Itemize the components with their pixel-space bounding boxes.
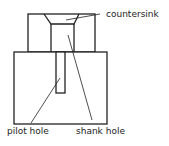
shank-hole-label: shank hole <box>76 127 125 136</box>
pilot-hole-label: pilot hole <box>7 127 49 136</box>
countersink-label: countersink <box>106 10 159 19</box>
pilot-hole <box>56 52 65 93</box>
upper-block <box>28 14 95 52</box>
screw-hole-diagram <box>0 0 169 146</box>
